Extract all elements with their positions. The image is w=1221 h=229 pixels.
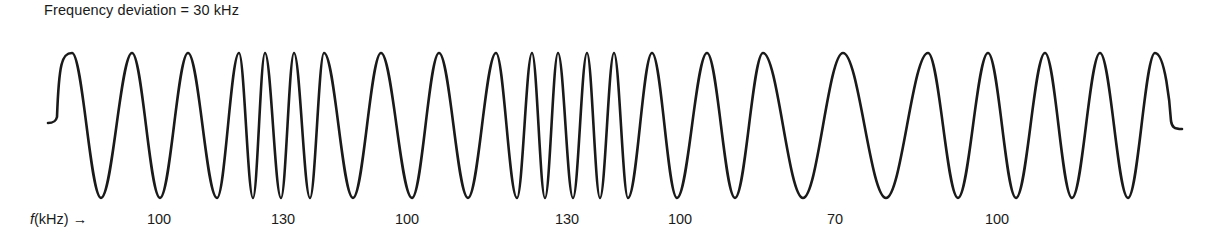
- frequency-label: 100: [395, 211, 419, 227]
- fm-signal-curve: [48, 53, 1182, 198]
- fm-waveform: [0, 0, 1221, 229]
- frequency-label: 70: [827, 211, 843, 227]
- frequency-label: 130: [271, 211, 295, 227]
- frequency-label: 130: [555, 211, 579, 227]
- right-arrow-icon: →: [73, 211, 88, 227]
- frequency-label: 100: [668, 211, 692, 227]
- frequency-unit: (kHz): [34, 211, 69, 227]
- frequency-label: 100: [147, 211, 171, 227]
- frequency-label: 100: [985, 211, 1009, 227]
- frequency-axis-label: f(kHz) →: [30, 211, 87, 227]
